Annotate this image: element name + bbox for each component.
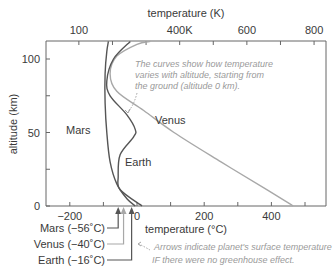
mars-label: Mars xyxy=(66,124,91,136)
left-tick-label: 100 xyxy=(22,53,40,65)
temperature-altitude-chart: −2000200400100400K600800050100 temperatu… xyxy=(0,0,334,273)
arrows-note: Arrows indicate planet's surface tempera… xyxy=(152,242,334,265)
venus-label: Venus xyxy=(155,114,186,126)
y-axis-title: altitude (km) xyxy=(7,94,19,155)
venus-marker-label: Venus (−40˚C) xyxy=(34,238,105,250)
earth-leader-line xyxy=(107,213,132,260)
mars-arrowhead xyxy=(115,207,121,214)
bottom-tick-label: 200 xyxy=(195,210,213,222)
curves-note: The curves show how temperature varies w… xyxy=(135,59,276,91)
mars-leader-line xyxy=(107,213,118,228)
bottom-axis-title: temperature (°C) xyxy=(145,223,227,235)
venus-arrowhead xyxy=(121,207,127,214)
bottom-tick-label: 0 xyxy=(134,210,140,222)
earth-label: Earth xyxy=(125,156,151,168)
top-axis-title: temperature (K) xyxy=(147,7,224,19)
top-tick-label: 400K xyxy=(167,24,193,36)
mars-marker-label: Mars (−56˚C) xyxy=(40,222,105,234)
top-tick-label: 600 xyxy=(238,24,256,36)
surface-temperature-arrows xyxy=(107,207,135,260)
left-tick-label: 50 xyxy=(28,127,40,139)
bottom-tick-label: 400 xyxy=(262,210,280,222)
arrows-note-pointer xyxy=(139,244,150,250)
earth-marker-label: Earth (−16˚C) xyxy=(38,254,105,266)
bottom-tick-label: −200 xyxy=(57,210,82,222)
left-tick-label: 0 xyxy=(34,200,40,212)
top-tick-label: 800 xyxy=(305,24,323,36)
top-tick-label: 100 xyxy=(70,24,88,36)
